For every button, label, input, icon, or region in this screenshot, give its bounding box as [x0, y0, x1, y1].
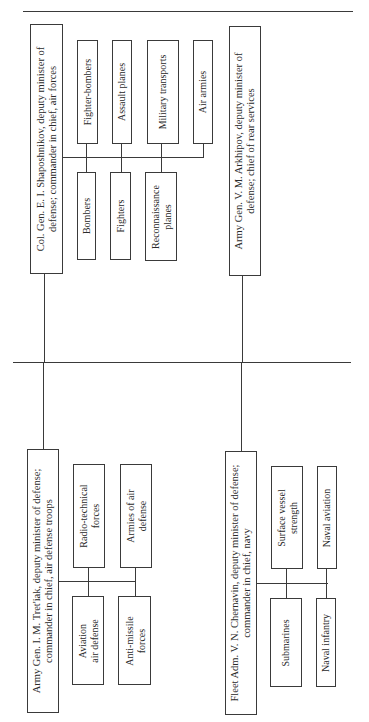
navy-units-bus: [256, 583, 328, 584]
navy-commander-line1: Fleet Adm. V. N. Chernavin, deputy minis…: [229, 465, 241, 702]
unit-radio-technical-forces: Radio-technical forces: [73, 464, 105, 568]
unit-label: Anti-missile: [123, 616, 135, 665]
navy-commander-box: Fleet Adm. V. N. Chernavin, deputy minis…: [225, 451, 257, 715]
top-bus-line: [23, 11, 353, 12]
unit-label: Reconnaissance: [150, 185, 162, 249]
military-transports-connector: [161, 143, 162, 172]
unit-label: Air armies: [197, 71, 209, 114]
unit-reconnaissance-planes: Reconnaissance planes: [145, 172, 177, 261]
unit-label-line2: air defense: [88, 619, 100, 663]
unit-label: Surface vessel: [276, 489, 288, 546]
rear-services-chief-box: Army Gen. V. M. Arkhipov, deputy ministe…: [229, 26, 261, 276]
radio-technical-connector: [88, 567, 89, 596]
unit-label: Armies of air: [125, 489, 137, 542]
unit-bombers: Bombers: [77, 172, 96, 260]
air-forces-connector: [44, 273, 45, 363]
air-defense-connector: [43, 362, 44, 450]
air-defense-commander-line2: commander in chief, air defense troops: [43, 469, 55, 694]
unit-label: Submarines: [280, 619, 292, 666]
air-forces-units-bus: [62, 157, 203, 158]
navy-connector: [241, 362, 242, 452]
unit-anti-missile-forces: Anti-missile forces: [118, 596, 151, 685]
air-defense-commander-box: Army Gen. I. M. Tret'iak, deputy ministe…: [27, 449, 59, 713]
unit-label-line2: forces: [135, 616, 147, 665]
air-forces-commander-line1: Col. Gen. E. I. Shaposhnikov, deputy min…: [35, 47, 47, 252]
unit-label: Fighters: [115, 200, 127, 233]
unit-fighter-bombers: Fighter-bombers: [77, 40, 98, 144]
air-forces-commander-line2: defense; commander in chief, air forces: [47, 47, 59, 252]
unit-label: Fighter-bombers: [82, 59, 94, 125]
unit-label-line2: strength: [287, 489, 299, 546]
air-armies-connector: [203, 143, 204, 158]
unit-label: Naval infantry: [320, 613, 332, 671]
unit-surface-vessel-strength: Surface vessel strength: [271, 466, 303, 569]
rear-services-chief-line1: Army Gen. V. M. Arkhipov, deputy ministe…: [233, 53, 245, 250]
unit-submarines: Submarines: [270, 598, 302, 687]
unit-label: Assault planes: [116, 63, 128, 121]
middle-bus-line: [13, 362, 351, 363]
armies-air-defense-connector: [135, 567, 136, 596]
unit-assault-planes: Assault planes: [112, 40, 132, 144]
assault-planes-connector: [121, 143, 122, 172]
unit-aviation-air-defense: Aviation air defense: [72, 596, 104, 685]
unit-air-armies: Air armies: [193, 40, 213, 144]
fighter-bombers-connector: [86, 143, 87, 172]
unit-armies-of-air-defense: Armies of air defense: [120, 464, 152, 568]
air-defense-commander-line1: Army Gen. I. M. Tret'iak, deputy ministe…: [31, 469, 43, 694]
air-forces-commander-box: Col. Gen. E. I. Shaposhnikov, deputy min…: [30, 24, 63, 274]
unit-military-transports: Military transports: [147, 40, 179, 144]
unit-label: Military transports: [157, 55, 169, 130]
surface-vessel-connector: [286, 568, 287, 598]
rear-services-connector: [242, 275, 243, 363]
unit-label: Naval aviation: [321, 488, 333, 547]
unit-label: Bombers: [81, 198, 93, 234]
unit-label: Radio-technical: [78, 484, 90, 547]
navy-commander-line2: commander in chief, navy: [241, 465, 253, 702]
unit-label-line2: planes: [161, 185, 173, 249]
naval-aviation-connector: [326, 568, 327, 598]
unit-label-line2: defense: [136, 489, 148, 542]
rear-services-chief-line2: defense; chief of rear services: [245, 53, 257, 250]
unit-label-line2: forces: [89, 484, 101, 547]
unit-naval-aviation: Naval aviation: [317, 466, 337, 569]
unit-fighters: Fighters: [110, 172, 131, 260]
air-defense-units-bus: [58, 581, 136, 582]
unit-label: Aviation: [77, 619, 89, 663]
unit-naval-infantry: Naval infantry: [316, 598, 336, 687]
